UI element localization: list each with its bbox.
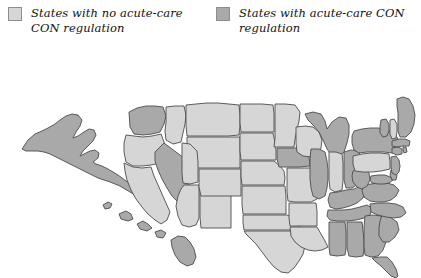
state-ct[interactable]: Connecticut	[392, 147, 402, 155]
state-wa[interactable]: Washington	[129, 106, 166, 135]
state-shape-vt[interactable]: Vermont	[380, 119, 389, 137]
state-sd[interactable]: South Dakota	[240, 133, 276, 160]
state-ut[interactable]: Utah	[182, 143, 198, 184]
state-shape-co[interactable]: Colorado	[199, 169, 241, 196]
state-shape-me[interactable]: Maine	[397, 97, 415, 137]
state-shape-ks[interactable]: Kansas	[242, 186, 286, 214]
state-ms[interactable]: Mississippi	[329, 222, 346, 256]
state-vt[interactable]: Vermont	[380, 119, 389, 137]
state-shape-ma[interactable]: Massachusetts	[392, 139, 410, 147]
state-shape-nh[interactable]: New Hampshire	[390, 119, 397, 139]
state-shape-hi[interactable]: Hawaii	[119, 211, 133, 221]
state-shape-wa[interactable]: Washington	[129, 106, 166, 135]
state-shape-sc[interactable]: South Carolina	[379, 215, 399, 242]
map-legend: States with no acute-care CON regulation…	[0, 0, 421, 46]
state-nd[interactable]: North Dakota	[240, 104, 274, 132]
state-ar[interactable]: Arkansas	[289, 203, 317, 226]
state-ma[interactable]: Massachusetts	[392, 139, 410, 147]
legend-swatch-no-con-icon	[8, 7, 22, 21]
state-shape-al[interactable]: Alabama	[347, 222, 364, 257]
state-shape-id[interactable]: Idaho	[165, 106, 186, 144]
state-me[interactable]: Maine	[397, 97, 415, 137]
state-nj[interactable]: New Jersey	[391, 156, 400, 175]
state-shape-md[interactable]: Maryland	[370, 175, 393, 184]
state-mt[interactable]: Montana	[186, 103, 240, 136]
state-shape-hi[interactable]: Hawaii	[171, 236, 196, 266]
state-pa[interactable]: Pennsylvania	[353, 153, 390, 172]
state-shape-in[interactable]: Indiana	[329, 152, 343, 192]
state-shape-mt[interactable]: Montana	[186, 103, 240, 136]
state-fl[interactable]: Florida	[372, 257, 398, 278]
state-shape-hi[interactable]: Hawaii	[137, 221, 152, 231]
state-shape-nd[interactable]: North Dakota	[240, 104, 274, 132]
state-shape-ct[interactable]: Connecticut	[392, 147, 402, 155]
legend-label-no-con: States with no acute-care CON regulation	[31, 6, 203, 36]
state-shape-sd[interactable]: South Dakota	[240, 133, 276, 160]
state-shape-il[interactable]: Illinois	[310, 149, 328, 199]
us-map: AlaskaHawaiiHawaiiHawaiiHawaiiHawaiiWash…	[0, 44, 421, 278]
state-md[interactable]: Maryland	[370, 175, 393, 184]
state-ks[interactable]: Kansas	[242, 186, 286, 214]
state-shape-fl[interactable]: Florida	[372, 257, 398, 278]
legend-label-has-con: States with acute-care CON regulation	[239, 6, 416, 36]
state-id[interactable]: Idaho	[165, 106, 186, 144]
state-shape-pa[interactable]: Pennsylvania	[353, 153, 390, 172]
state-shape-ut[interactable]: Utah	[182, 143, 198, 184]
state-shape-ms[interactable]: Mississippi	[329, 222, 346, 256]
state-al[interactable]: Alabama	[347, 222, 364, 257]
us-map-svg: AlaskaHawaiiHawaiiHawaiiHawaiiHawaiiWash…	[0, 44, 421, 278]
state-ri[interactable]: Rhode Island	[403, 147, 407, 153]
legend-item-no-con: States with no acute-care CON regulation	[8, 6, 203, 36]
state-shape-ar[interactable]: Arkansas	[289, 203, 317, 226]
state-shape-hi[interactable]: Hawaii	[155, 230, 166, 238]
state-shape-nj[interactable]: New Jersey	[391, 156, 400, 175]
con-regulation-map-figure: States with no acute-care CON regulation…	[0, 0, 421, 278]
state-sc[interactable]: South Carolina	[379, 215, 399, 242]
states-layer: AlaskaHawaiiHawaiiHawaiiHawaiiHawaiiWash…	[22, 97, 415, 278]
state-nh[interactable]: New Hampshire	[390, 119, 397, 139]
state-shape-ri[interactable]: Rhode Island	[403, 147, 407, 153]
state-in[interactable]: Indiana	[329, 152, 343, 192]
legend-swatch-has-con-icon	[216, 7, 230, 21]
state-shape-hi[interactable]: Hawaii	[103, 202, 112, 209]
state-co[interactable]: Colorado	[199, 169, 241, 196]
legend-item-has-con: States with acute-care CON regulation	[216, 6, 416, 36]
state-il[interactable]: Illinois	[310, 149, 328, 199]
